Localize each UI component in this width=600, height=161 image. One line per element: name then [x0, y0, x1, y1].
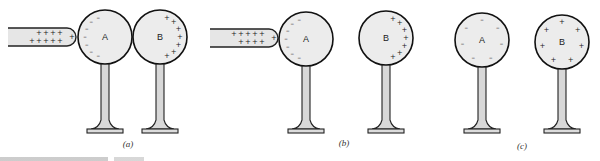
negative-charge-icon: –: [284, 35, 288, 43]
stand-a: [87, 61, 123, 133]
stand-a: [464, 64, 500, 133]
negative-charge-icon: –: [90, 18, 94, 26]
stand-b: [368, 62, 404, 133]
positive-charge-icon: +: [550, 56, 556, 64]
negative-charge-icon: –: [96, 14, 100, 22]
positive-charge-icon: +: [397, 49, 403, 57]
positive-charge-icon: +: [245, 38, 251, 46]
positive-charge-icon: +: [401, 26, 407, 34]
positive-charge-icon: +: [175, 25, 181, 33]
positive-charge-icon: +: [543, 26, 549, 34]
positive-charge-icon: +: [57, 37, 63, 45]
sphere-label: A: [102, 32, 108, 42]
charged-rod: ++++++++++: [210, 29, 278, 47]
induction-diagram: ++++++++++A–––––––B+++++++(a)++++++++++A…: [0, 0, 600, 161]
negative-charge-icon: –: [472, 54, 476, 62]
positive-charge-icon: +: [164, 14, 170, 22]
positive-charge-icon: +: [177, 33, 183, 41]
positive-charge-icon: +: [171, 48, 177, 56]
stand-a: [288, 63, 324, 133]
sphere-b: B+++++++: [359, 11, 413, 65]
sphere-label: A: [303, 34, 309, 44]
panel-label: (c): [517, 141, 527, 151]
negative-charge-icon: –: [291, 20, 295, 28]
positive-charge-icon: +: [231, 30, 237, 38]
negative-charge-icon: –: [461, 40, 465, 48]
charged-rod: ++++++++++: [8, 28, 76, 46]
sphere-a: A–––––––: [455, 13, 509, 67]
negative-charge-icon: –: [489, 54, 493, 62]
negative-charge-icon: –: [297, 16, 301, 24]
negative-charge-icon: –: [480, 16, 484, 24]
positive-charge-icon: +: [252, 38, 258, 46]
negative-charge-icon: –: [291, 50, 295, 58]
sphere-a: A–––––––: [78, 10, 132, 64]
negative-charge-icon: –: [96, 52, 100, 60]
positive-charge-icon: +: [29, 37, 35, 45]
sphere-b: B+++++++: [535, 15, 589, 69]
negative-charge-icon: –: [465, 24, 469, 32]
positive-charge-icon: +: [164, 52, 170, 60]
stand-b: [142, 61, 178, 133]
negative-charge-icon: –: [85, 41, 89, 49]
sphere-label: B: [559, 37, 565, 47]
positive-charge-icon: +: [403, 34, 409, 42]
negative-charge-icon: –: [496, 24, 500, 32]
positive-charge-icon: +: [540, 42, 546, 50]
panel-a: ++++++++++A–––––––B+++++++(a): [8, 10, 187, 149]
sphere-b: B+++++++: [133, 10, 187, 64]
positive-charge-icon: +: [259, 38, 265, 46]
panel-b: ++++++++++A–––––––B+++++++(b): [210, 11, 413, 148]
positive-charge-icon: +: [390, 53, 396, 61]
sphere-label: B: [383, 33, 389, 43]
negative-charge-icon: –: [286, 27, 290, 35]
figure-caption-cutoff: [0, 157, 600, 161]
positive-charge-icon: +: [390, 15, 396, 23]
negative-charge-icon: –: [500, 40, 504, 48]
negative-charge-icon: –: [83, 33, 87, 41]
panel-label: (a): [123, 139, 134, 149]
negative-charge-icon: –: [297, 54, 301, 62]
positive-charge-icon: +: [559, 18, 565, 26]
positive-charge-icon: +: [579, 42, 585, 50]
positive-charge-icon: +: [43, 37, 49, 45]
positive-charge-icon: +: [69, 33, 75, 41]
sphere-label: A: [479, 35, 485, 45]
positive-charge-icon: +: [36, 37, 42, 45]
positive-charge-icon: +: [238, 38, 244, 46]
stand-b: [544, 66, 580, 133]
negative-charge-icon: –: [90, 48, 94, 56]
panel-c: A–––––––B+++++++(c): [455, 13, 589, 151]
positive-charge-icon: +: [50, 37, 56, 45]
negative-charge-icon: –: [286, 43, 290, 51]
panel-label: (b): [339, 138, 350, 148]
sphere-a: A–––––––: [279, 12, 333, 66]
positive-charge-icon: +: [568, 56, 574, 64]
sphere-label: B: [157, 32, 163, 42]
positive-charge-icon: +: [575, 26, 581, 34]
negative-charge-icon: –: [85, 25, 89, 33]
positive-charge-icon: +: [271, 34, 277, 42]
